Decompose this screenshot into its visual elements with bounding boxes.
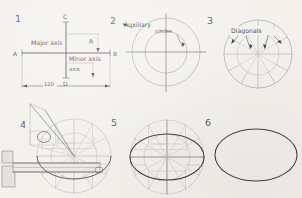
- diagonals-label: Diagonals: [231, 27, 262, 35]
- panel-4-number: 4: [20, 119, 26, 130]
- radius-label: R: [89, 38, 94, 45]
- panel-3-number: 3: [207, 15, 213, 26]
- point-b-label: B: [113, 50, 117, 57]
- minor-axis-label-line2: axis: [69, 66, 80, 72]
- technical-drawing-canvas: 1 A B C D Major axis R Minor axis axis: [0, 0, 302, 198]
- point-c-label: C: [63, 13, 67, 20]
- tool-head-upper: [2, 151, 13, 163]
- panel-5-number: 5: [111, 117, 117, 128]
- major-axis-label: Major axis: [31, 39, 63, 47]
- panel-1-number: 1: [15, 13, 21, 24]
- panel-6-number: 6: [205, 117, 211, 128]
- minor-axis-label-line1: Minor axis: [69, 55, 101, 62]
- auxiliary-circles-label-line1: Auxiliary: [124, 21, 151, 29]
- panel-2-number: 2: [110, 15, 116, 26]
- dimension-value: 120: [44, 81, 54, 87]
- auxiliary-circles-label-line2: circles: [155, 28, 172, 34]
